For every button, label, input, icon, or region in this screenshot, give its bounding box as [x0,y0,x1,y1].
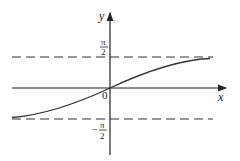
x-axis-label: x [217,90,224,104]
lower-asymptote-sign: − [92,124,98,135]
arctan-graph: y x 0 π 2 − π 2 [0,0,240,161]
lower-asymptote-denominator: 2 [100,131,105,141]
upper-asymptote-denominator: 2 [101,47,106,57]
upper-asymptote-numerator: π [101,37,106,47]
origin-label: 0 [102,89,108,101]
lower-asymptote-numerator: π [100,120,105,130]
y-axis-label: y [98,9,105,23]
